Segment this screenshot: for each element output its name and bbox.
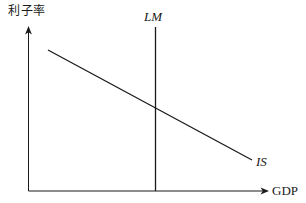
is-curve [48,50,252,160]
diagram-canvas [0,0,306,203]
is-lm-diagram: 利子率 LM IS GDP [0,0,306,203]
is-curve-label: IS [256,155,267,168]
y-axis-label: 利子率 [8,5,46,17]
lm-curve-label: LM [144,10,162,23]
x-axis-label: GDP [272,184,298,197]
